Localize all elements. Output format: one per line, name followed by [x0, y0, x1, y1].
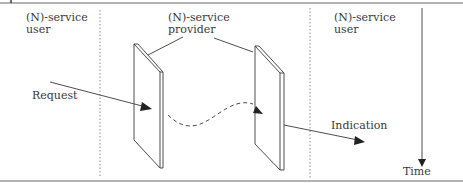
provider-panel-right	[255, 46, 284, 170]
provider-panel-left	[134, 44, 163, 168]
provider-internal-path	[168, 103, 253, 126]
service-provider-line2: provider	[168, 24, 230, 36]
provider-leader-left	[148, 37, 183, 55]
service-provider-label: (N)-service provider	[168, 12, 230, 36]
request-label: Request	[32, 90, 78, 102]
time-label: Time	[403, 166, 431, 178]
provider-leader-right	[214, 38, 253, 52]
service-user-right-line2: user	[334, 24, 396, 36]
service-user-left-label: (N)-service user	[26, 12, 88, 36]
indication-arrowhead-icon	[354, 136, 365, 145]
service-user-left-line2: user	[26, 24, 88, 36]
service-user-right-label: (N)-service user	[334, 12, 396, 36]
indication-label: Indication	[331, 120, 387, 132]
